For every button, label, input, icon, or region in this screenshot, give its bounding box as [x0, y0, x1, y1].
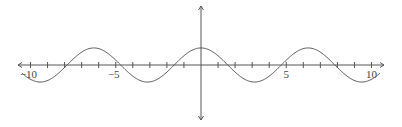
- x-axis-tick-labels: −10−5510: [20, 68, 378, 80]
- axes: [18, 6, 384, 120]
- function-plot: −10−5510: [0, 0, 402, 127]
- x-tick-label: 5: [284, 68, 290, 80]
- x-tick-label: −5: [108, 68, 120, 80]
- x-tick-label: 10: [366, 68, 378, 80]
